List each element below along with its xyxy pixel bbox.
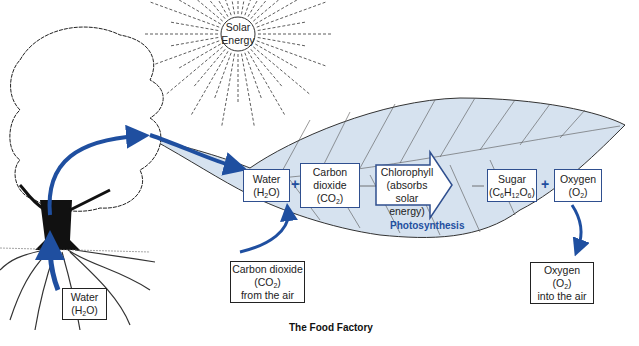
arrow-co2-up bbox=[240, 212, 288, 252]
co2-formula: (CO2) bbox=[317, 192, 344, 205]
co2-air-formula: (CO2) bbox=[254, 276, 281, 289]
sun-ray bbox=[177, 44, 220, 69]
sun-label-line1: Solar bbox=[221, 21, 255, 34]
oxygen-formula: (O2) bbox=[568, 186, 587, 199]
box-o2-into-air: Oxygen (O2) into the air bbox=[530, 262, 594, 304]
root-water-formula: (H2O) bbox=[71, 304, 98, 317]
co2-air-line3: from the air bbox=[241, 289, 294, 302]
oxygen-label: Oxygen bbox=[560, 173, 596, 186]
co2-label-line1: Carbon bbox=[313, 166, 347, 179]
sun-ray bbox=[241, 0, 254, 14]
chlorophyll-line2: (absorbs bbox=[378, 179, 436, 192]
sun-ray bbox=[241, 54, 254, 128]
sun-ray bbox=[248, 0, 286, 17]
sugar-label: Sugar bbox=[498, 173, 526, 186]
sun-ray bbox=[258, 37, 307, 46]
sun-ray bbox=[255, 0, 298, 24]
plus-sign-1: + bbox=[291, 176, 299, 192]
sun-ray bbox=[222, 0, 235, 14]
root-water-label: Water bbox=[71, 291, 99, 304]
sun-ray bbox=[149, 2, 219, 28]
sun-ray bbox=[253, 47, 310, 95]
sun-ray bbox=[255, 44, 298, 69]
box-carbon-dioxide: Carbon dioxide (CO2) bbox=[300, 163, 360, 208]
sun-label-line2: Energy bbox=[221, 34, 255, 47]
arrow-o2-down bbox=[572, 205, 581, 248]
water-label: Water bbox=[253, 173, 281, 186]
chlorophyll-line1: Chlorophyll bbox=[378, 166, 436, 179]
sun-ray bbox=[222, 54, 235, 128]
sun-ray bbox=[257, 2, 327, 28]
box-co2-from-air: Carbon dioxide (CO2) from the air bbox=[230, 261, 305, 303]
sugar-formula: (C6H12O6) bbox=[489, 186, 535, 199]
sun-ray bbox=[258, 22, 307, 31]
plus-sign-2: + bbox=[541, 176, 549, 192]
sun-ray bbox=[257, 41, 327, 67]
chlorophyll-line3: solar energy) bbox=[378, 192, 436, 218]
co2-air-label: Carbon dioxide bbox=[232, 263, 303, 276]
box-water: Water (H2O) bbox=[243, 169, 290, 202]
box-root-water: Water (H2O) bbox=[62, 288, 107, 320]
box-oxygen: Oxygen (O2) bbox=[554, 169, 602, 202]
chlorophyll-label: Chlorophyll (absorbs solar energy) bbox=[378, 166, 436, 218]
diagram-title: The Food Factory bbox=[289, 322, 373, 333]
sun-ray bbox=[177, 0, 220, 24]
sun-ray bbox=[149, 41, 219, 67]
sun-ray bbox=[169, 22, 218, 31]
o2-air-formula: (O2) bbox=[552, 277, 571, 290]
o2-air-line3: into the air bbox=[537, 290, 586, 303]
sun-label: Solar Energy bbox=[221, 21, 255, 47]
sun-ray bbox=[245, 53, 262, 100]
box-sugar: Sugar (C6H12O6) bbox=[487, 169, 537, 202]
sun-ray bbox=[165, 47, 222, 95]
o2-air-label: Oxygen bbox=[544, 264, 580, 277]
sun-ray bbox=[214, 53, 231, 100]
co2-label-line2: dioxide bbox=[313, 179, 346, 192]
photosynthesis-label: Photosynthesis bbox=[390, 220, 464, 231]
water-formula: (H2O) bbox=[253, 186, 280, 199]
tree-illustration bbox=[0, 27, 163, 330]
sun-ray bbox=[191, 0, 229, 17]
sun-ray bbox=[169, 37, 218, 46]
arrow-roots-to-trunk bbox=[50, 245, 58, 290]
